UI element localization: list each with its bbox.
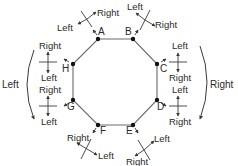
crosshair-b-right-label: Right — [155, 19, 178, 30]
vertex-labels: A B C D E F G H — [62, 26, 167, 136]
crosshair-a-right-label: Right — [97, 7, 120, 18]
crosshair-g — [39, 96, 57, 116]
crosshair-d-right-label: Right — [169, 116, 192, 127]
left-arc-arrow-icon — [27, 50, 34, 119]
crosshair-g-left-label: Left — [41, 116, 57, 127]
vertex-f-label: F — [100, 125, 106, 136]
vertex-d-label: D — [157, 101, 164, 112]
crosshair-b-crossbar — [140, 10, 150, 30]
octagon — [73, 39, 157, 125]
crosshair-a-left-label: Left — [57, 22, 73, 33]
crosshair-a-crossbar — [81, 11, 92, 27]
vertex-c-dot — [155, 62, 159, 66]
crosshair-h-left-label: Left — [41, 72, 57, 83]
right-arc-arrow-icon — [200, 46, 207, 119]
octagon-diagram: A B C D E F G H Right Left Left Right Le… — [0, 0, 238, 166]
crosshair-f-right-label: Right — [67, 132, 90, 143]
vertex-arrows — [64, 30, 166, 133]
vertex-dots — [71, 37, 159, 127]
vertex-e-arrow-icon — [135, 128, 138, 133]
vertex-b-dot — [131, 37, 135, 41]
crosshair-c-right-label: Right — [169, 72, 192, 83]
crosshair-f-arrow-icon — [77, 143, 87, 149]
crosshair-e-arrow-icon — [144, 141, 154, 150]
crosshair-c — [169, 53, 187, 72]
vertex-h-arrow-icon — [64, 59, 69, 62]
crosshair-a — [78, 11, 96, 27]
crosshair-e-left-label: Left — [154, 133, 170, 144]
crosshair-g-right-label: Right — [39, 84, 62, 95]
crosshair-d-left-label: Left — [172, 84, 188, 95]
left-arc — [27, 50, 34, 119]
vertex-a-arrow-icon — [93, 30, 97, 35]
vertex-h-label: H — [62, 63, 69, 74]
vertex-c-arrow-icon — [161, 59, 166, 62]
vertex-f-arrow-icon — [93, 128, 96, 133]
crosshair-f-arrow-icon — [87, 149, 97, 155]
crosshair-a-arrow-icon — [87, 12, 96, 19]
crosshair-c-left-label: Left — [172, 40, 188, 51]
crosshair-b-arrow-icon — [136, 13, 145, 20]
vertex-g-label: G — [67, 101, 75, 112]
crosshair-f-left-label: Left — [98, 150, 114, 161]
left-side-label: Left — [2, 79, 19, 90]
crosshair-b-arrow-icon — [145, 20, 155, 26]
vertex-a-dot — [96, 37, 100, 41]
vertex-b-label: B — [125, 26, 132, 37]
vertex-c-label: C — [160, 63, 167, 74]
crosshair-a-arrow-icon — [78, 19, 87, 24]
right-arc — [200, 46, 207, 119]
vertex-h-dot — [71, 62, 75, 66]
crosshair-b-left-label: Left — [127, 1, 143, 12]
vertex-a-label: A — [98, 26, 105, 37]
crosshair-d — [169, 96, 187, 116]
vertex-e-label: E — [126, 125, 133, 136]
vertex-b-arrow-icon — [135, 30, 138, 35]
crosshair-e-right-label: Right — [126, 156, 149, 166]
crosshair-h-right-label: Right — [39, 40, 62, 51]
crosshair-b — [136, 10, 155, 30]
crosshair-h — [39, 52, 57, 73]
right-side-label: Right — [210, 79, 234, 90]
